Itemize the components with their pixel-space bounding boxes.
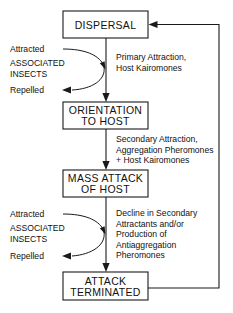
side-group-associated-insects-upper: Attracted ASSOCIATED INSECTS Repelled xyxy=(10,44,106,95)
flowchart-diagram: DISPERSAL Primary Attraction, Host Kairo… xyxy=(0,0,233,313)
edge-label-decline-line4: Antiaggregation xyxy=(116,240,176,250)
label-repelled-lower: Repelled xyxy=(10,251,44,261)
edge-orientation-massattack-arrowhead xyxy=(102,161,109,170)
edge-label-primary-attraction-line2: Host Kairomones xyxy=(116,63,182,73)
node-orientation-label-line2: TO HOST xyxy=(81,115,130,127)
curve-attracted-upper xyxy=(63,49,103,64)
edge-label-decline-line3: Production of xyxy=(116,229,167,239)
curve-repelled-upper xyxy=(72,67,104,90)
edge-label-secondary-attraction-line3: + Host Kairomones xyxy=(116,155,189,165)
side-group-associated-insects-lower: Attracted ASSOCIATED INSECTS Repelled xyxy=(10,209,106,261)
arrowhead-repelled-lower xyxy=(62,253,71,260)
edge-feedback-arrowhead xyxy=(149,21,158,28)
edge-label-decline-line1: Decline in Secondary xyxy=(116,208,198,218)
label-attracted-upper: Attracted xyxy=(10,44,45,54)
label-associated-insects-lower-line2: INSECTS xyxy=(10,234,48,244)
edge-label-primary-attraction-line1: Primary Attraction, xyxy=(116,52,186,62)
curve-repelled-lower xyxy=(72,232,104,256)
edge-dispersal-orientation-arrowhead xyxy=(102,93,109,102)
node-dispersal[interactable]: DISPERSAL xyxy=(63,11,148,38)
edge-label-secondary-attraction-line2: Aggregation Pheromones xyxy=(116,145,213,155)
edge-orientation-to-mass-attack: Secondary Attraction, Aggregation Pherom… xyxy=(102,129,213,170)
edge-mass-attack-to-terminated: Decline in Secondary Attractants and/or … xyxy=(102,197,198,272)
flowchart-canvas: DISPERSAL Primary Attraction, Host Kairo… xyxy=(0,0,233,313)
label-associated-insects-upper-line2: INSECTS xyxy=(10,69,48,79)
edge-massattack-terminated-arrowhead xyxy=(102,263,109,272)
node-attack-terminated[interactable]: ATTACK TERMINATED xyxy=(63,272,148,300)
label-associated-insects-lower-line1: ASSOCIATED xyxy=(10,223,65,233)
edge-label-decline-line2: Attractants and/or xyxy=(116,219,184,229)
label-repelled-upper: Repelled xyxy=(10,85,44,95)
curve-attracted-lower xyxy=(63,214,103,229)
node-mass-attack-of-host[interactable]: MASS ATTACK OF HOST xyxy=(63,170,148,197)
edge-label-decline-line5: Pheromones xyxy=(116,250,165,260)
label-associated-insects-upper-line1: ASSOCIATED xyxy=(10,58,65,68)
arrowhead-repelled-upper xyxy=(62,87,71,94)
node-orientation-to-host[interactable]: ORIENTATION TO HOST xyxy=(63,102,148,129)
edge-dispersal-to-orientation: Primary Attraction, Host Kairomones xyxy=(102,38,186,102)
node-dispersal-label: DISPERSAL xyxy=(75,19,137,31)
edge-label-secondary-attraction-line1: Secondary Attraction, xyxy=(116,134,198,144)
node-mass-attack-label-line2: OF HOST xyxy=(81,183,130,195)
node-attack-terminated-label-line2: TERMINATED xyxy=(70,286,141,298)
label-attracted-lower: Attracted xyxy=(10,209,45,219)
